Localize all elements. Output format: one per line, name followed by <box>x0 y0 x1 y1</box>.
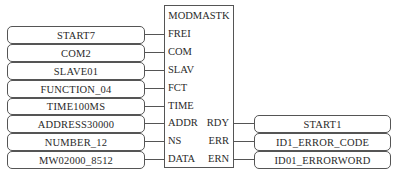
pin-ns: NS <box>168 135 181 146</box>
pin-com: COM <box>168 46 192 57</box>
pin-ern: ERN <box>208 153 229 164</box>
pin-err: ERR <box>209 135 229 146</box>
output-var-rdy: START1 <box>254 115 391 133</box>
output-var-ern: ID01_ERRORWORD <box>254 151 391 169</box>
input-var-slav: SLAVE01 <box>7 62 145 80</box>
wire-ns <box>144 141 164 142</box>
input-var-addr: ADDRESS30000 <box>7 115 145 133</box>
wire-addr <box>144 123 164 124</box>
wire-fct <box>144 88 164 89</box>
pin-data: DATA <box>168 153 195 164</box>
input-var-data: MW02000_8512 <box>7 151 145 169</box>
input-var-com: COM2 <box>7 44 145 62</box>
input-var-fct: FUNCTION_04 <box>7 80 145 98</box>
input-var-ns: NUMBER_12 <box>7 133 145 151</box>
wire-err <box>234 141 254 142</box>
pin-slav: SLAV <box>168 64 194 75</box>
wire-rdy <box>234 123 254 124</box>
wire-ern <box>234 159 254 160</box>
wire-slav <box>144 70 164 71</box>
wire-frei <box>144 34 164 35</box>
wire-data <box>144 159 164 160</box>
wire-time <box>144 106 164 107</box>
output-var-err: ID1_ERROR_CODE <box>254 133 391 151</box>
pin-time: TIME <box>168 100 194 111</box>
pin-frei: FREI <box>168 28 191 39</box>
pin-addr: ADDR <box>168 117 198 128</box>
modmastk-function-block: MODMASTK FREI COM SLAV FCT TIME ADDR NS … <box>164 5 234 168</box>
block-title: MODMASTK <box>165 10 233 21</box>
input-var-time: TIME100MS <box>7 98 145 115</box>
pin-fct: FCT <box>168 82 187 93</box>
input-var-frei: START7 <box>7 26 145 44</box>
pin-rdy: RDY <box>207 117 229 128</box>
wire-com <box>144 52 164 53</box>
